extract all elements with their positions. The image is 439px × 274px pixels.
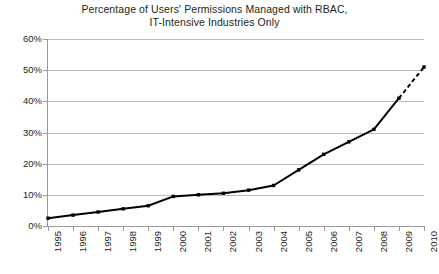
y-axis-tick-label: 10% [8,189,42,200]
y-axis-labels: 0%10%20%30%40%50%60% [0,39,42,227]
x-axis-tick-label: 1996 [77,231,88,271]
gridline-50% [48,70,424,71]
x-axis-tick-label: 2007 [353,231,364,271]
y-axis-tick-label: 50% [8,64,42,75]
y-axis-tick-label: 60% [8,33,42,44]
gridline-40% [48,101,424,102]
x-axis-tick-label: 1999 [152,231,163,271]
x-axis-labels: 1995199619971998199920002001200220032004… [48,231,424,273]
y-axis-tick-label: 20% [8,158,42,169]
plot-area [48,39,424,226]
y-axis-tick-label: 40% [8,95,42,106]
x-axis-tick-label: 2009 [403,231,414,271]
x-axis-tick-label: 2003 [253,231,264,271]
x-axis-tick-label: 1998 [127,231,138,271]
x-axis-tick-label: 2006 [328,231,339,271]
x-axis-tick-label: 2010 [428,231,439,271]
gridline-60% [48,39,424,40]
x-axis-tick-label: 2002 [227,231,238,271]
chart-title-line-1: Percentage of Users' Permissions Managed… [81,3,347,15]
x-axis-tick-label: 2004 [278,231,289,271]
chart-title-line-2: IT-Intensive Industries Only [0,16,429,29]
x-axis-tick-label: 2005 [303,231,314,271]
gridline-10% [48,195,424,196]
gridline-20% [48,164,424,165]
x-axis-tick-label: 1995 [52,231,63,271]
x-axis-tick-label: 2001 [202,231,213,271]
y-axis-tick-label: 0% [8,220,42,231]
y-axis-line [47,39,48,227]
x-axis-tick-label: 2008 [378,231,389,271]
chart-title: Percentage of Users' Permissions Managed… [0,3,429,29]
x-axis-tick-label: 1997 [102,231,113,271]
x-axis-tick-label: 2000 [177,231,188,271]
gridline-30% [48,133,424,134]
y-axis-tick-label: 30% [8,127,42,138]
x-axis-tick-mark [424,226,425,231]
